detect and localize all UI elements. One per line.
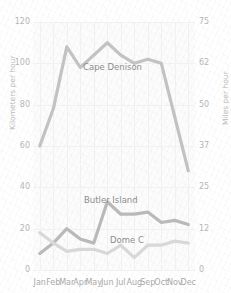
left-tick-100: 100	[8, 59, 30, 67]
right-tick-62: 62	[199, 59, 221, 67]
gridlines-group	[33, 22, 195, 271]
series-lines-group	[40, 43, 189, 258]
left-tick-60: 60	[8, 142, 30, 150]
left-tick-80: 80	[8, 101, 30, 109]
right-tick-12: 12	[199, 225, 221, 233]
series-label-cape-denison: Cape Denison	[83, 63, 142, 72]
left-tick-20: 20	[8, 225, 30, 233]
right-tick-25: 25	[199, 183, 221, 191]
series-line-butler-island	[40, 202, 189, 254]
series-label-butler-island: Butler Island	[84, 196, 138, 205]
chart-canvas	[0, 0, 231, 293]
wind-speed-line-chart: Kilometers per hour 120100806040200 Mile…	[0, 0, 231, 293]
right-tick-50: 50	[199, 101, 221, 109]
right-tick-75: 75	[199, 18, 221, 26]
series-label-dome-c: Dome C	[110, 236, 144, 245]
right-axis-title: Miles per hour	[222, 71, 230, 125]
left-tick-0: 0	[8, 266, 30, 274]
left-tick-40: 40	[8, 183, 30, 191]
x-tick-dec: Dec	[177, 279, 199, 287]
right-tick-0: 0	[199, 266, 221, 274]
left-tick-120: 120	[8, 18, 30, 26]
right-tick-37: 37	[199, 142, 221, 150]
